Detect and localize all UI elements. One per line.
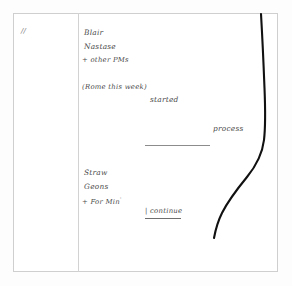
margin-rule-line [78, 13, 79, 272]
continue-underline [145, 218, 181, 219]
note-page: // Blair Nastase + other PMs (Rome this … [0, 0, 292, 286]
note-started: started [150, 96, 179, 103]
note-geons: Geons [84, 183, 109, 190]
note-rome-this-week: (Rome this week) [82, 84, 147, 91]
note-nastase: Nastase [84, 43, 116, 50]
note-blair: Blair [84, 29, 103, 36]
margin-column-mark: // [21, 28, 26, 35]
note-other-pms: + other PMs [82, 57, 129, 64]
note-process: process [213, 125, 244, 132]
note-for-min-superscript: ' [120, 196, 122, 202]
note-for-min: + For Min' [82, 197, 122, 206]
body-horizontal-rule [145, 145, 210, 146]
note-continue: | continue [145, 208, 182, 215]
note-for-min-text: + For Min [82, 198, 120, 206]
note-straw: Straw [84, 169, 108, 176]
sheet-frame [13, 13, 278, 272]
